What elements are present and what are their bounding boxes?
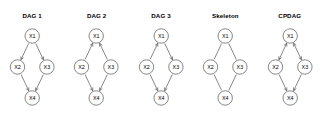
node-label: X2: [272, 64, 279, 70]
graph-node: X4: [218, 91, 232, 105]
graph-edge: [21, 74, 29, 90]
graph-canvas: X1X2X3X4: [64, 0, 128, 119]
graph-edge: [150, 74, 158, 90]
graph-node: X2: [139, 60, 153, 74]
node-label: X2: [207, 64, 214, 70]
graph-node: X4: [89, 91, 103, 105]
node-label: X4: [93, 95, 100, 101]
graph-node: X3: [233, 60, 247, 74]
graph-canvas: X1X2X3X4: [258, 0, 322, 119]
graph-edge: [229, 44, 237, 60]
graph-canvas: X1X2X3X4: [193, 0, 257, 119]
graph-edge: [165, 44, 173, 60]
graph-edge: [293, 44, 301, 60]
node-label: X3: [301, 64, 308, 70]
node-label: X1: [222, 33, 229, 39]
graph-edge: [36, 44, 44, 60]
graph-edge: [150, 44, 158, 60]
graph-node: X2: [268, 60, 282, 74]
graph-edge: [21, 44, 29, 60]
graph-edge: [36, 74, 44, 90]
node-label: X4: [222, 95, 229, 101]
node-label: X4: [29, 95, 36, 101]
graph-edge: [229, 74, 237, 90]
graph-canvas: X1X2X3X4: [0, 0, 64, 119]
node-label: X1: [158, 33, 165, 39]
graph-node: X4: [25, 91, 39, 105]
node-label: X1: [286, 33, 293, 39]
node-label: X4: [286, 95, 293, 101]
graph-node: X4: [154, 91, 168, 105]
graph-node: X1: [218, 29, 232, 43]
graph-canvas: X1X2X3X4: [129, 0, 193, 119]
graph-node: X3: [297, 60, 311, 74]
node-label: X3: [108, 64, 115, 70]
node-label: X3: [44, 64, 51, 70]
graph-node: X2: [75, 60, 89, 74]
graph-edge: [164, 74, 172, 90]
graph-edge: [279, 74, 287, 90]
graph-edge: [85, 44, 93, 60]
causal-graph-figure: DAG 1X1X2X3X4DAG 2X1X2X3X4DAG 3X1X2X3X4S…: [0, 0, 322, 119]
graph-panel: DAG 3X1X2X3X4: [129, 0, 193, 119]
node-label: X1: [29, 33, 36, 39]
graph-node: X1: [283, 29, 297, 43]
graph-edge: [214, 74, 222, 90]
node-label: X4: [158, 95, 165, 101]
graph-node: X1: [154, 29, 168, 43]
graph-node: X3: [168, 60, 182, 74]
graph-node: X2: [10, 60, 24, 74]
graph-panel: DAG 1X1X2X3X4: [0, 0, 64, 119]
graph-edge: [214, 44, 222, 60]
node-label: X2: [14, 64, 21, 70]
panel-row: DAG 1X1X2X3X4DAG 2X1X2X3X4DAG 3X1X2X3X4S…: [0, 0, 322, 119]
graph-edge: [278, 44, 286, 60]
graph-panel: DAG 2X1X2X3X4: [64, 0, 128, 119]
graph-node: X1: [25, 29, 39, 43]
graph-panel: SkeletonX1X2X3X4: [193, 0, 257, 119]
graph-node: X3: [40, 60, 54, 74]
graph-edge: [100, 74, 108, 90]
node-label: X1: [93, 33, 100, 39]
graph-node: X1: [89, 29, 103, 43]
graph-node: X4: [283, 91, 297, 105]
node-label: X3: [172, 64, 179, 70]
node-label: X2: [143, 64, 150, 70]
graph-node: X2: [203, 60, 217, 74]
node-label: X3: [237, 64, 244, 70]
graph-panel: CPDAGX1X2X3X4: [258, 0, 322, 119]
graph-node: X3: [104, 60, 118, 74]
graph-edge: [293, 74, 301, 90]
graph-edge: [85, 74, 93, 90]
graph-edge: [100, 44, 108, 60]
node-label: X2: [79, 64, 86, 70]
